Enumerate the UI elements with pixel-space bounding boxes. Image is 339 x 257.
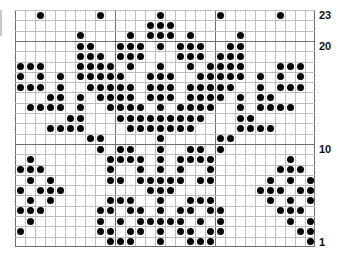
- stitch-dot: [267, 177, 274, 184]
- stitch-dot: [117, 177, 124, 184]
- stitch-dot: [277, 166, 284, 173]
- grid-column-line: [305, 10, 306, 247]
- stitch-dot: [297, 187, 304, 194]
- stitch-dot: [287, 63, 294, 70]
- stitch-dot: [187, 53, 194, 60]
- stitch-dot: [177, 156, 184, 163]
- stitch-dot: [97, 146, 104, 153]
- stitch-dot: [57, 94, 64, 101]
- stitch-dot: [37, 187, 44, 194]
- stitch-dot: [217, 12, 224, 19]
- stitch-dot: [147, 177, 154, 184]
- stitch-dot: [247, 125, 254, 132]
- stitch-dot: [47, 197, 54, 204]
- stitch-dot: [117, 43, 124, 50]
- stitch-dot: [127, 228, 134, 235]
- stitch-dot: [157, 187, 164, 194]
- stitch-dot: [107, 228, 114, 235]
- stitch-dot: [167, 32, 174, 39]
- stitch-dot: [117, 146, 124, 153]
- stitch-dot: [187, 125, 194, 132]
- stitch-dot: [207, 156, 214, 163]
- stitch-dot: [117, 84, 124, 91]
- stitch-dot: [237, 32, 244, 39]
- grid-row-line: [15, 31, 315, 32]
- stitch-dot: [17, 166, 24, 173]
- grid-row-line: [15, 134, 315, 135]
- stitch-dot: [97, 53, 104, 60]
- grid-row-line: [15, 123, 315, 124]
- stitch-dot: [117, 104, 124, 111]
- stitch-dot: [37, 104, 44, 111]
- grid-column-line: [65, 10, 66, 247]
- stitch-dot: [157, 218, 164, 225]
- stitch-dot: [27, 166, 34, 173]
- stitch-dot: [197, 218, 204, 225]
- grid-column-line: [265, 10, 266, 247]
- stitch-dot: [137, 43, 144, 50]
- stitch-dot: [27, 197, 34, 204]
- stitch-dot: [167, 115, 174, 122]
- stitch-dot: [17, 84, 24, 91]
- grid-column-line: [175, 10, 176, 247]
- stitch-dot: [147, 125, 154, 132]
- stitch-dot: [127, 115, 134, 122]
- stitch-chart-grid: [15, 10, 315, 247]
- row-label-1: 1: [319, 237, 325, 248]
- stitch-dot: [67, 115, 74, 122]
- stitch-dot: [227, 84, 234, 91]
- stitch-dot: [117, 53, 124, 60]
- grid-column-line: [275, 10, 276, 247]
- stitch-dot: [227, 73, 234, 80]
- stitch-dot: [167, 218, 174, 225]
- grid-column-line: [185, 10, 186, 247]
- stitch-dot: [217, 94, 224, 101]
- stitch-dot: [237, 53, 244, 60]
- stitch-dot: [47, 104, 54, 111]
- stitch-dot: [27, 84, 34, 91]
- stitch-dot: [197, 146, 204, 153]
- stitch-dot: [117, 156, 124, 163]
- stitch-dot: [157, 94, 164, 101]
- stitch-dot: [17, 63, 24, 70]
- stitch-dot: [277, 84, 284, 91]
- stitch-dot: [287, 207, 294, 214]
- stitch-dot: [257, 125, 264, 132]
- grid-column-line: [35, 10, 36, 247]
- stitch-dot: [97, 228, 104, 235]
- stitch-dot: [137, 115, 144, 122]
- stitch-dot: [187, 104, 194, 111]
- stitch-dot: [257, 94, 264, 101]
- stitch-dot: [137, 125, 144, 132]
- grid-row-line: [15, 154, 315, 155]
- grid-column-line: [95, 10, 96, 247]
- grid-row-line: [15, 216, 315, 217]
- stitch-dot: [187, 207, 194, 214]
- stitch-dot: [87, 63, 94, 70]
- grid-column-line: [255, 10, 256, 247]
- stitch-dot: [137, 207, 144, 214]
- stitch-dot: [77, 32, 84, 39]
- stitch-dot: [97, 12, 104, 19]
- stitch-dot: [177, 115, 184, 122]
- stitch-dot: [87, 73, 94, 80]
- grid-column-line: [135, 10, 136, 247]
- stitch-dot: [177, 53, 184, 60]
- stitch-dot: [27, 156, 34, 163]
- stitch-dot: [97, 84, 104, 91]
- stitch-dot: [77, 43, 84, 50]
- stitch-dot: [37, 12, 44, 19]
- stitch-dot: [217, 73, 224, 80]
- stitch-dot: [127, 125, 134, 132]
- stitch-dot: [197, 197, 204, 204]
- grid-column-line: [115, 10, 116, 247]
- stitch-dot: [137, 104, 144, 111]
- grid-row-line: [15, 62, 315, 63]
- stitch-dot: [187, 63, 194, 70]
- grid-row-line: [15, 246, 315, 247]
- stitch-dot: [297, 207, 304, 214]
- grid-row-line: [15, 185, 315, 186]
- stitch-dot: [17, 207, 24, 214]
- stitch-dot: [207, 73, 214, 80]
- grid-row-line: [15, 226, 315, 227]
